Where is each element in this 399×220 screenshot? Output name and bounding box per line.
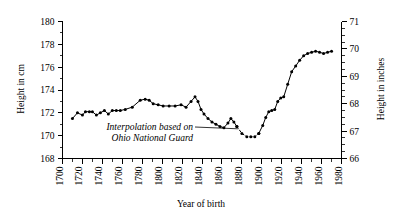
- y-left-tick-label: 180: [40, 17, 55, 27]
- data-point-marker: [249, 135, 252, 138]
- data-point-marker: [270, 109, 273, 112]
- data-point-marker: [240, 132, 243, 135]
- series-line: [259, 51, 332, 133]
- x-tick-label: 1860: [214, 166, 224, 185]
- data-point-marker: [115, 109, 118, 112]
- data-point-marker: [144, 98, 147, 101]
- data-point-marker: [286, 83, 289, 86]
- x-tick-label: 1740: [94, 166, 104, 185]
- data-point-marker: [273, 108, 276, 111]
- data-point-marker: [318, 51, 321, 54]
- annotation-leader-line: [195, 127, 238, 129]
- x-tick-label: 1920: [274, 166, 284, 185]
- annotation-line-2: Ohio National Guard: [112, 133, 194, 143]
- data-point-marker: [267, 110, 270, 113]
- data-point-marker: [185, 106, 188, 109]
- y-left-tick-label: 174: [40, 85, 55, 95]
- data-point-marker: [124, 108, 127, 111]
- y-right-tick-label: 67: [350, 127, 360, 137]
- x-tick-label: 1880: [234, 166, 244, 185]
- x-tick-label: 1960: [314, 166, 324, 185]
- data-point-marker: [282, 95, 285, 98]
- series-line: [237, 127, 259, 137]
- x-tick-label: 1900: [254, 166, 264, 185]
- x-axis-tick-labels: 1700172017401760178018001820184018601880…: [55, 166, 344, 185]
- data-point-marker: [279, 96, 282, 99]
- y-axis-left-tick-labels: 168170172174176178180: [40, 17, 55, 164]
- data-point-marker: [232, 120, 235, 123]
- data-point-marker: [218, 125, 221, 128]
- y-left-tick-label: 170: [40, 131, 55, 141]
- x-tick-label: 1980: [334, 166, 344, 185]
- data-point-marker: [330, 50, 333, 53]
- data-point-marker: [310, 51, 313, 54]
- data-point-marker: [162, 104, 165, 107]
- data-point-marker: [131, 106, 134, 109]
- data-point-marker: [210, 120, 213, 123]
- data-point-marker: [180, 103, 183, 106]
- data-point-marker: [202, 112, 205, 115]
- data-point-marker: [306, 52, 309, 55]
- data-point-marker: [302, 54, 305, 57]
- data-point-marker: [139, 99, 142, 102]
- data-point-marker: [99, 111, 102, 114]
- data-point-marker: [148, 99, 151, 102]
- x-tick-label: 1820: [174, 166, 184, 185]
- data-point-marker: [84, 110, 87, 113]
- data-point-marker: [206, 117, 209, 120]
- data-point-marker: [226, 122, 229, 125]
- x-tick-label: 1840: [194, 166, 204, 185]
- data-point-marker: [290, 70, 293, 73]
- data-point-marker: [174, 104, 177, 107]
- y-axis-right-title: Height in inches: [376, 58, 386, 121]
- data-point-marker: [294, 65, 297, 68]
- y-right-tick-label: 71: [350, 17, 360, 27]
- data-point-marker: [95, 114, 98, 117]
- data-point-marker: [222, 126, 225, 129]
- x-tick-label: 1940: [294, 166, 304, 185]
- data-point-marker: [229, 117, 232, 120]
- x-tick-label: 1760: [114, 166, 124, 185]
- x-tick-label: 1720: [74, 166, 84, 185]
- data-point-marker: [276, 100, 279, 103]
- y-left-tick-label: 178: [40, 40, 55, 50]
- data-point-marker: [261, 124, 264, 127]
- data-point-marker: [298, 59, 301, 62]
- x-tick-label: 1700: [55, 166, 65, 185]
- y-right-tick-label: 70: [350, 44, 360, 54]
- x-tick-label: 1800: [154, 166, 164, 185]
- data-point-marker: [71, 117, 74, 120]
- plot-frame: [63, 22, 342, 159]
- y-left-tick-label: 172: [40, 108, 55, 118]
- data-point-marker: [190, 100, 193, 103]
- data-point-marker: [81, 114, 84, 117]
- data-point-marker: [91, 110, 94, 113]
- y-right-tick-label: 66: [350, 154, 360, 164]
- data-point-marker: [264, 116, 267, 119]
- data-point-marker: [152, 102, 155, 105]
- y-left-tick-label: 176: [40, 63, 55, 73]
- y-right-tick-label: 69: [350, 72, 360, 82]
- data-point-marker: [322, 52, 325, 55]
- data-point-marker: [253, 135, 256, 138]
- x-axis-title: Year of birth: [177, 199, 225, 209]
- data-point-marker: [88, 110, 91, 113]
- data-point-marker: [197, 100, 200, 103]
- x-axis-ticks: [63, 159, 342, 164]
- y-axis-left-title: Height in cm: [16, 64, 26, 114]
- y-axis-left-ticks: [58, 22, 63, 159]
- x-tick-label: 1780: [134, 166, 144, 185]
- data-point-marker: [235, 125, 238, 128]
- height-by-year-of-birth-line-chart: 1700172017401760178018001820184018601880…: [0, 0, 399, 220]
- data-point-marker: [326, 51, 329, 54]
- chart-container: 1700172017401760178018001820184018601880…: [0, 0, 399, 220]
- y-right-tick-label: 68: [350, 99, 360, 109]
- data-point-marker: [194, 95, 197, 98]
- annotation-line-1: Interpolation based on: [105, 122, 193, 132]
- data-point-marker: [111, 109, 114, 112]
- data-point-marker: [103, 109, 106, 112]
- data-point-marker: [168, 104, 171, 107]
- y-axis-right-tick-labels: 666768697071: [350, 17, 360, 164]
- y-axis-right-ticks: [342, 22, 347, 159]
- data-point-marker: [157, 103, 160, 106]
